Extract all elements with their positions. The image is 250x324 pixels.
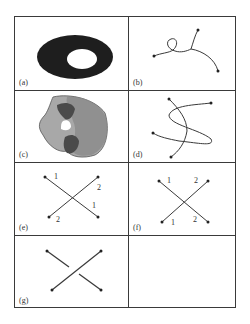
panel-d: (d) bbox=[129, 91, 237, 162]
overlapping-regions bbox=[15, 91, 128, 162]
segment-number: 1 bbox=[167, 176, 171, 185]
panel-label-f: (f) bbox=[133, 223, 141, 232]
panel-empty bbox=[129, 236, 237, 308]
panel-label-c: (c) bbox=[19, 150, 28, 159]
segment-number: 2 bbox=[193, 215, 197, 224]
over-under-segments bbox=[15, 236, 128, 308]
panel-e: 1 2 1 2 (e) bbox=[15, 163, 128, 235]
panel-a: (a) bbox=[15, 17, 128, 90]
panel-f: 1 2 1 2 (f) bbox=[129, 163, 237, 235]
looped-curve bbox=[129, 17, 237, 90]
panel-g: (g) bbox=[15, 236, 128, 308]
segment-number: 2 bbox=[97, 183, 101, 192]
annulus-shape bbox=[15, 17, 128, 90]
crossing-segments-e: 1 2 1 2 bbox=[15, 163, 128, 235]
panel-label-e: (e) bbox=[19, 223, 28, 232]
segment-number: 1 bbox=[92, 201, 96, 210]
panel-label-d: (d) bbox=[133, 150, 142, 159]
segment-number: 2 bbox=[56, 215, 60, 224]
segment-number: 1 bbox=[171, 218, 175, 227]
panel-label-a: (a) bbox=[19, 78, 28, 87]
panel-c: (c) bbox=[15, 91, 128, 162]
segment-number: 1 bbox=[54, 172, 58, 181]
panel-label-b: (b) bbox=[133, 78, 142, 87]
segment-number: 2 bbox=[194, 176, 198, 185]
panel-b: (b) bbox=[129, 17, 237, 90]
crossing-segments-f: 1 2 1 2 bbox=[129, 163, 237, 235]
crossing-curves bbox=[129, 91, 237, 162]
panel-label-g: (g) bbox=[19, 296, 28, 305]
figure-grid: (a) (b) (c) (d) bbox=[14, 16, 236, 308]
